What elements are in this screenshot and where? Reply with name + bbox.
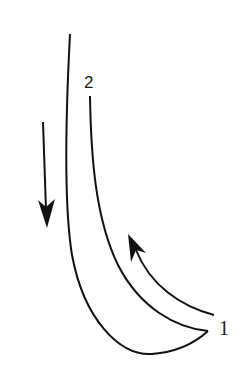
- inner-curve: [90, 96, 208, 331]
- label-1: 1: [219, 317, 229, 339]
- label-2: 2: [84, 73, 93, 92]
- down-arrow: [38, 122, 55, 228]
- curved-up-arrow: [128, 234, 214, 315]
- diagram-canvas: 2 1: [0, 0, 252, 370]
